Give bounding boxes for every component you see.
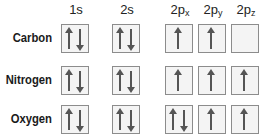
- column-header-2px: 2px: [165, 2, 195, 18]
- orbital-box-oxygen-2s: [112, 105, 140, 134]
- spin-up-arrow-icon: [119, 29, 121, 49]
- spin-down-arrow-icon: [130, 71, 132, 91]
- orbital-box-carbon-2s: [112, 24, 140, 53]
- spin-up-arrow-icon: [68, 71, 70, 91]
- spin-down-arrow-icon: [79, 110, 81, 130]
- column-header-base: 2s: [120, 2, 134, 17]
- spin-up-arrow-icon: [177, 71, 179, 91]
- spin-up-arrow-icon: [210, 71, 212, 91]
- orbital-box-nitrogen-2py: [198, 66, 226, 95]
- spin-up-arrow-icon: [119, 71, 121, 91]
- orbital-box-nitrogen-2px: [165, 66, 193, 95]
- spin-down-arrow-icon: [130, 110, 132, 130]
- row-label-nitrogen: Nitrogen: [5, 73, 52, 87]
- spin-down-arrow-icon: [79, 29, 81, 49]
- orbital-box-nitrogen-1s: [61, 66, 89, 95]
- spin-up-arrow-icon: [68, 29, 70, 49]
- spin-down-arrow-icon: [130, 29, 132, 49]
- spin-up-arrow-icon: [68, 110, 70, 130]
- row-label-carbon: Carbon: [5, 31, 52, 45]
- orbital-box-nitrogen-2s: [112, 66, 140, 95]
- column-header-subscript: z: [251, 8, 256, 18]
- column-header-subscript: y: [218, 8, 223, 18]
- spin-up-arrow-icon: [172, 110, 174, 130]
- column-header-base: 2p: [204, 2, 218, 17]
- orbital-box-oxygen-1s: [61, 105, 89, 134]
- column-header-2py: 2py: [198, 2, 228, 18]
- orbital-box-carbon-2pz: [231, 24, 259, 53]
- orbital-box-oxygen-2py: [198, 105, 226, 134]
- spin-up-arrow-icon: [119, 110, 121, 130]
- orbital-box-carbon-1s: [61, 24, 89, 53]
- spin-down-arrow-icon: [183, 110, 185, 130]
- spin-up-arrow-icon: [243, 71, 245, 91]
- column-header-subscript: x: [185, 8, 190, 18]
- column-header-base: 2p: [237, 2, 251, 17]
- spin-down-arrow-icon: [79, 71, 81, 91]
- spin-up-arrow-icon: [210, 29, 212, 49]
- spin-up-arrow-icon: [177, 29, 179, 49]
- orbital-box-carbon-2px: [165, 24, 193, 53]
- column-header-2pz: 2pz: [231, 2, 261, 18]
- orbital-box-oxygen-2pz: [231, 105, 259, 134]
- column-header-base: 2p: [171, 2, 185, 17]
- spin-up-arrow-icon: [243, 110, 245, 130]
- spin-up-arrow-icon: [210, 110, 212, 130]
- column-header-2s: 2s: [112, 2, 142, 17]
- row-label-oxygen: Oxygen: [5, 112, 52, 126]
- orbital-box-oxygen-2px: [165, 105, 193, 134]
- column-header-base: 1s: [69, 2, 83, 17]
- column-header-1s: 1s: [61, 2, 91, 17]
- orbital-box-nitrogen-2pz: [231, 66, 259, 95]
- orbital-box-carbon-2py: [198, 24, 226, 53]
